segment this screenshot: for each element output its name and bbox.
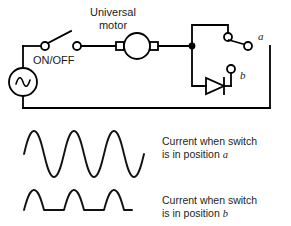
contact-position-b[interactable] (227, 65, 235, 73)
label-position-a: a (258, 30, 264, 42)
motor-label-line2: motor (99, 19, 127, 31)
waveform-b-caption-prefix: is in position (162, 207, 223, 219)
ac-source (9, 68, 37, 96)
waveform-a-caption-position: a (223, 149, 228, 160)
onoff-switch-label: ON/OFF (33, 54, 75, 66)
waveform-b-caption-position: b (223, 208, 228, 219)
motor-icon (124, 33, 150, 59)
motor-terminal-left (116, 42, 124, 50)
motor-terminal-right (150, 42, 158, 50)
waveform-b-caption-line2: is in position b (162, 207, 228, 219)
onoff-switch-right-contact[interactable] (73, 42, 81, 50)
waveform-a-caption-prefix: is in position (162, 148, 223, 160)
waveform-a-caption-line2: is in position a (162, 148, 228, 160)
label-position-b: b (240, 69, 246, 81)
motor-label-line1: Universal (90, 6, 136, 18)
waveform-a-caption-line1: Current when switch (162, 135, 257, 147)
circuit-and-waveform-figure: ON/OFF Universal motor a (0, 0, 291, 226)
contact-position-a[interactable] (244, 42, 252, 50)
waveform-b-caption-line1: Current when switch (162, 194, 257, 206)
figure-background (0, 0, 291, 226)
